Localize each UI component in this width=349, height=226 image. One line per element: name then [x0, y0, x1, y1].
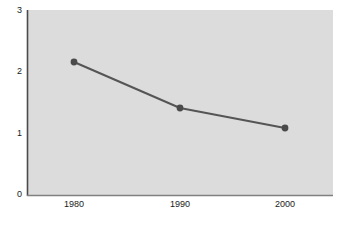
plot-area-background	[27, 10, 333, 196]
y-tick-label-3: 3	[17, 5, 22, 15]
y-tick-label-0: 0	[17, 189, 22, 199]
data-point-marker[interactable]	[282, 125, 289, 132]
data-point-marker[interactable]	[177, 105, 184, 112]
chart-canvas: 3 2 1 0 1980 1990 2000	[0, 0, 349, 226]
y-tick-label-1: 1	[17, 128, 22, 138]
data-point-marker[interactable]	[71, 59, 78, 66]
line-chart: 3 2 1 0 1980 1990 2000	[0, 0, 349, 226]
x-tick-label-1980: 1980	[64, 199, 84, 209]
x-tick-label-2000: 2000	[275, 199, 295, 209]
y-tick-label-2: 2	[17, 66, 22, 76]
x-tick-label-1990: 1990	[170, 199, 190, 209]
